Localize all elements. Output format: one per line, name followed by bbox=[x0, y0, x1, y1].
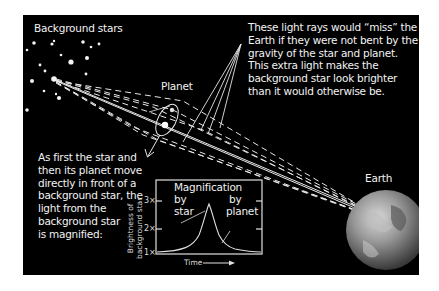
callout-line: background star look brighter bbox=[248, 72, 418, 85]
planet-label: Planet bbox=[161, 80, 193, 93]
callout-pointer-lines bbox=[183, 44, 241, 142]
graph-label-by-star-1: by bbox=[174, 193, 186, 206]
y-axis-label-line: background star bbox=[136, 198, 145, 259]
explanation-line: directly in front of a bbox=[38, 177, 143, 190]
graph-label-by-star-2: star bbox=[174, 205, 194, 218]
callout-note: These light rays would “miss” the Earth … bbox=[248, 21, 418, 98]
graph-title: Magnification bbox=[174, 181, 242, 194]
y-tick-1x: 1× bbox=[144, 248, 156, 257]
y-tick-2x: 2× bbox=[144, 224, 156, 233]
y-tick-3x: 3× bbox=[144, 196, 156, 205]
planet-icon bbox=[170, 108, 174, 112]
explanation-line: As first the star and bbox=[38, 151, 143, 164]
lens-star-and-planet bbox=[145, 101, 183, 157]
earth-icon bbox=[346, 190, 419, 270]
x-axis-label: Time bbox=[184, 258, 202, 267]
y-axis-label: Brightness of background star bbox=[127, 198, 144, 259]
earth-label: Earth bbox=[365, 172, 392, 185]
graph-label-by-planet-1: by bbox=[229, 193, 241, 206]
callout-line: These light rays would “miss” the bbox=[248, 21, 418, 34]
callout-line: This extra light makes the bbox=[248, 59, 418, 72]
graph-label-by-planet-2: planet bbox=[226, 205, 258, 218]
diagram-panel: Background stars Planet Earth These ligh… bbox=[23, 15, 419, 275]
lens-star-icon bbox=[162, 122, 168, 128]
background-stars-label: Background stars bbox=[34, 22, 123, 35]
callout-line: gravity of the star and planet. bbox=[248, 47, 418, 60]
explanation-line: then its planet move bbox=[38, 164, 143, 177]
callout-line: Earth if they were not bent by the bbox=[248, 34, 418, 47]
callout-line: than it would otherwise be. bbox=[248, 85, 418, 98]
background-stars-icon bbox=[25, 40, 100, 112]
